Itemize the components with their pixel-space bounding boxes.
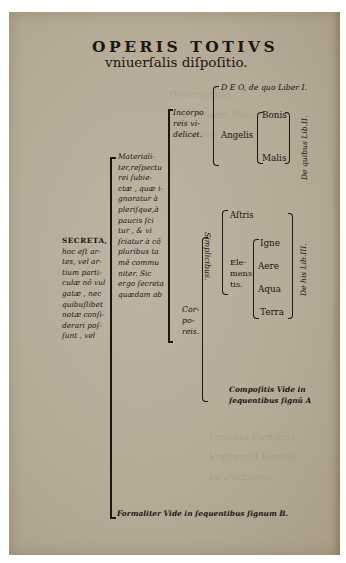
- compositis-label: Compoſitis Vide in ſequentibus ſignũ A: [229, 384, 311, 406]
- show-through-text: Incantationes: [209, 472, 271, 482]
- root-brace-top-hook: [110, 157, 116, 159]
- corporeis-label: Cor- po- reis.: [182, 304, 199, 337]
- element-aere: Aere: [258, 262, 279, 271]
- angel-bonis: Bonis: [262, 111, 287, 120]
- root-brace-bottom-hook: [110, 517, 116, 519]
- formaliter-label: Formaliter Vide in ſequentibus ſignum B.: [117, 510, 288, 517]
- angelis-label: Angelis: [221, 131, 253, 140]
- secreta-label: SECRETA, hoc eſt ar- tes, vel ar- tium p…: [62, 236, 108, 342]
- incorporeis-brace: [213, 86, 219, 166]
- show-through-text: Vngiramus Ruminis: [209, 452, 299, 462]
- element-igne: Igne: [260, 239, 280, 248]
- astris-label: Aſtris: [230, 211, 254, 219]
- materialiter-brace: [168, 110, 170, 342]
- show-through-text: Vergilius Campana: [209, 432, 295, 442]
- element-aqua: Aqua: [258, 285, 281, 294]
- simplicibus-label: Simplicibus.: [203, 232, 212, 281]
- corporeis-side-note: De his Lib.III.: [299, 243, 308, 296]
- elementis-label: Ele- mens tis.: [230, 257, 252, 290]
- root-brace-upper: [110, 158, 112, 518]
- elementis-brace: [253, 239, 259, 319]
- incorporeis-label: Incorpo reis vi- delicet.: [173, 107, 204, 140]
- simplicibus-brace: [222, 210, 228, 295]
- angel-malis: Malis: [262, 154, 286, 163]
- element-terra: Terra: [260, 308, 284, 317]
- angelis-right-brace: [285, 112, 290, 164]
- page-subtitle: vniuerſalis diſpoſitio.: [105, 56, 248, 70]
- page-title: OPERIS TOTIVS: [92, 39, 278, 55]
- materialiter-brace-bottom: [168, 341, 173, 343]
- deo-label: D E O, de quo Liber I.: [221, 84, 307, 92]
- corporeis-right-brace: [288, 213, 293, 319]
- materialiter-label: Materiali- ter,reſpectu rei ſubie- ctæ ,…: [118, 152, 164, 300]
- page-edge-shadow: [332, 12, 340, 555]
- incorporeis-side-note: De quibus Lib.II.: [300, 116, 309, 180]
